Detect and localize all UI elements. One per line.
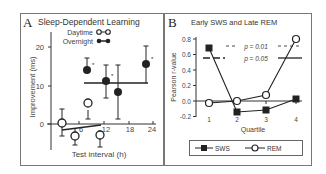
rem-marker: [206, 100, 213, 107]
panel-a-x-label: Test interval (h): [72, 150, 127, 159]
data-point: [71, 129, 79, 145]
rem-marker: [234, 98, 241, 105]
legend-open-circle-icon: [106, 30, 111, 35]
y-tick-0.2: 0.2: [182, 82, 191, 89]
svg-text:*: *: [92, 62, 95, 68]
panel-b-title: Early SWS and Late REM: [191, 18, 277, 27]
y-tick-0.8: 0.8: [182, 36, 191, 43]
x-tick-18: 18: [126, 125, 134, 134]
legend-sws-label: SWS: [215, 145, 230, 152]
svg-text:*: *: [111, 73, 114, 79]
data-point: [58, 109, 66, 136]
data-point: [84, 99, 92, 119]
panel-a-legend: Daytime Overnight: [63, 29, 111, 46]
panel-a-letter: A: [23, 15, 33, 30]
data-point: [114, 65, 122, 119]
rem-marker: [263, 92, 270, 99]
panel-b-x-label: Quartile: [241, 126, 266, 134]
x-tick-6: 6: [79, 125, 83, 134]
x-tick-1: 1: [207, 116, 211, 123]
x-tick-4: 4: [294, 116, 298, 123]
y-tick-neg-0.2: -0.2: [180, 113, 192, 120]
legend-open-circle-icon: [252, 145, 258, 151]
svg-text:*: *: [151, 56, 154, 62]
legend-filled-circle-icon: [106, 39, 111, 44]
y-tick-0.4: 0.4: [182, 67, 191, 74]
legend-rem-label: REM: [267, 145, 281, 152]
legend-filled-circle-icon: [97, 39, 102, 44]
legend-open-circle-icon: [97, 30, 102, 35]
x-tick-24: 24: [148, 125, 156, 134]
data-point: *: [102, 65, 114, 98]
p05-label: p = 0.05: [243, 55, 268, 63]
y-tick-20: 20: [36, 43, 44, 52]
legend-overnight-label: Overnight: [63, 38, 93, 46]
figure: A Sleep-Dependent Learning 20 10 0 6 12 …: [0, 0, 326, 174]
panel-a: A Sleep-Dependent Learning 20 10 0 6 12 …: [21, 14, 164, 166]
y-tick-0.0: 0.0: [182, 98, 191, 105]
x-tick-2: 2: [235, 116, 239, 123]
data-point: *: [83, 58, 95, 74]
panel-a-title: Sleep-Dependent Learning: [38, 17, 140, 27]
sws-marker: [206, 45, 213, 52]
sws-marker: [263, 107, 270, 114]
x-tick-3: 3: [264, 116, 268, 123]
rem-marker: [293, 36, 300, 43]
legend-daytime-label: Daytime: [67, 29, 93, 37]
legend-filled-square-icon: [201, 145, 207, 151]
panel-b-y-label: Pearson r-value: [170, 52, 177, 102]
panel-a-y-label: Improvement (ms): [28, 56, 37, 117]
daytime-points: [58, 99, 104, 147]
y-tick-0.6: 0.6: [182, 51, 191, 58]
sws-marker: [293, 96, 300, 103]
panel-b-legend: SWS REM: [190, 141, 303, 156]
sws-marker: [234, 109, 241, 116]
data-point: [96, 130, 104, 147]
panel-b-letter: B: [168, 15, 177, 30]
p01-label: p = 0.01: [243, 43, 268, 51]
data-point: *: [142, 46, 154, 83]
panel-b: B Early SWS and Late REM 0.8 0.6 0.4 0.2…: [165, 14, 312, 166]
y-tick-0: 0: [40, 120, 44, 129]
